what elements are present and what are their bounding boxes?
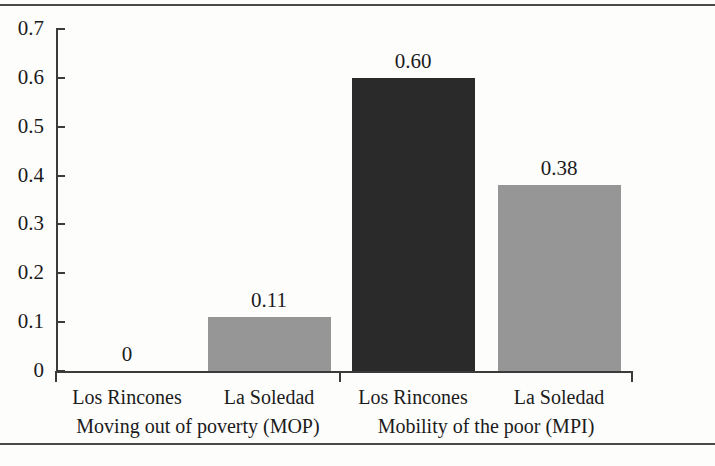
bar-value-label: 0 (67, 344, 187, 365)
y-axis-tick (56, 370, 65, 372)
bar[interactable] (498, 185, 621, 371)
y-axis-tick (56, 321, 65, 323)
y-axis-tick (56, 175, 65, 177)
bar[interactable] (352, 78, 475, 371)
x-axis-group-label: Mobility of the poor (MPI) (326, 416, 646, 436)
y-axis-tick (56, 272, 65, 274)
x-axis-tick (339, 371, 341, 382)
y-axis-tick-label: 0.7 (0, 18, 44, 39)
x-axis-group-label: Moving out of poverty (MOP) (38, 416, 358, 436)
bar-value-label: 0.60 (353, 51, 473, 72)
y-axis-tick-label: 0 (0, 360, 44, 381)
y-axis-tick-label: 0.1 (0, 311, 44, 332)
bar-value-label: 0.11 (209, 290, 329, 311)
chart-page: 00.10.20.30.40.50.60.7 0Los Rincones0.11… (0, 0, 715, 466)
y-axis-tick-label: 0.6 (0, 67, 44, 88)
x-axis-tick (55, 371, 57, 382)
x-axis-category-label: La Soledad (479, 387, 639, 407)
bar-chart: 00.10.20.30.40.50.60.7 0Los Rincones0.11… (0, 0, 715, 466)
x-axis-line (56, 371, 632, 373)
x-axis-category-label: Los Rincones (47, 387, 207, 407)
x-axis-category-label: La Soledad (189, 387, 349, 407)
y-axis-tick-label: 0.3 (0, 213, 44, 234)
y-axis-tick (56, 126, 65, 128)
bar[interactable] (208, 317, 331, 371)
bar-value-label: 0.38 (499, 158, 619, 179)
y-axis-tick (56, 223, 65, 225)
y-axis-tick-label: 0.4 (0, 165, 44, 186)
x-axis-tick (631, 371, 633, 382)
x-axis-category-label: Los Rincones (333, 387, 493, 407)
y-axis-tick-label: 0.2 (0, 262, 44, 283)
y-axis-tick-label: 0.5 (0, 116, 44, 137)
y-axis-tick (56, 77, 65, 79)
y-axis-tick (56, 28, 65, 30)
